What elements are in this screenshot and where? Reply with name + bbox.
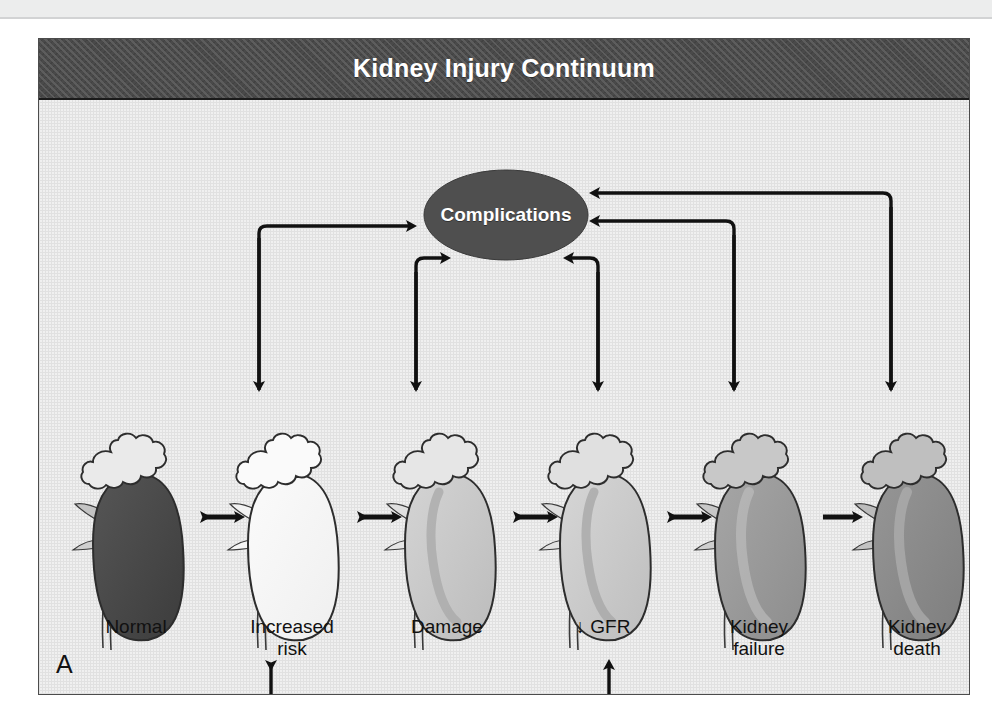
- figure-title: Kidney Injury Continuum: [353, 54, 655, 83]
- stage-label-kidney-death-line1: Kidney: [842, 616, 969, 638]
- panel-letter: A: [56, 650, 73, 679]
- complication-link-kidney-failure: [595, 221, 734, 390]
- complication-link-decreased-gfr: [569, 258, 598, 390]
- stage-label-decreased-gfr: ↓ GFR: [528, 616, 678, 638]
- complication-link-damage: [416, 258, 445, 390]
- figure-root: Kidney Injury Continuum: [0, 0, 992, 720]
- complication-link-increased-risk: [259, 226, 411, 390]
- scan-top-band: [0, 0, 992, 17]
- scan-top-rule: [0, 17, 992, 19]
- diagram-canvas: Complications Normal Increased risk Dama…: [39, 100, 969, 694]
- feedback-arrow-increased-risk-decreased-gfr: [271, 665, 609, 694]
- diagram-svg: [39, 100, 969, 694]
- stage-label-kidney-death-line2: death: [842, 638, 969, 660]
- stage-label-normal-line1: Normal: [61, 616, 211, 638]
- stage-label-normal: Normal: [61, 616, 211, 638]
- stage-label-kidney-failure-line1: Kidney: [684, 616, 834, 638]
- stage-label-damage-line1: Damage: [372, 616, 522, 638]
- stage-label-kidney-death: Kidney death: [842, 616, 969, 661]
- stage-label-decreased-gfr-line1: ↓ GFR: [528, 616, 678, 638]
- stage-label-increased-risk: Increased risk: [217, 616, 367, 661]
- stage-label-increased-risk-line2: risk: [217, 638, 367, 660]
- figure-panel: Kidney Injury Continuum: [38, 38, 970, 695]
- stage-label-kidney-failure-line2: failure: [684, 638, 834, 660]
- stage-label-damage: Damage: [372, 616, 522, 638]
- complications-node[interactable]: [424, 170, 588, 260]
- figure-title-bar: Kidney Injury Continuum: [39, 39, 969, 100]
- stage-label-increased-risk-line1: Increased: [217, 616, 367, 638]
- stage-label-kidney-failure: Kidney failure: [684, 616, 834, 661]
